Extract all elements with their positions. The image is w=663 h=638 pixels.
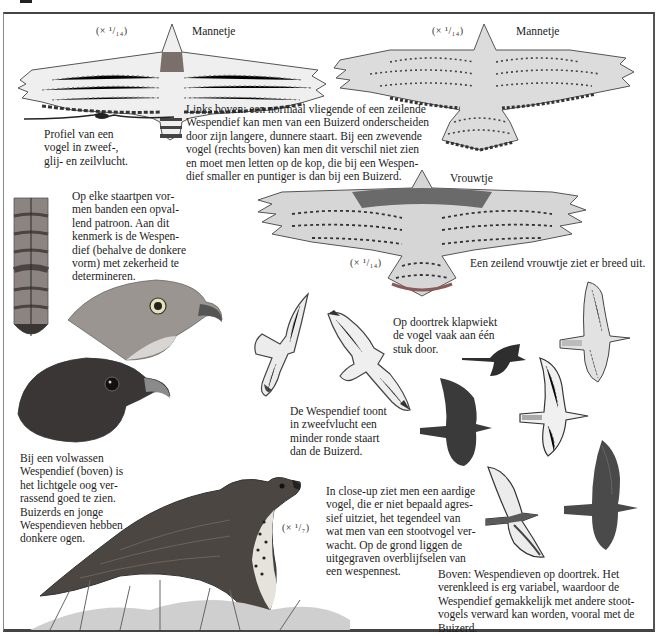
- female-soaring-illustration: [252, 168, 592, 298]
- male-label: Mannetje: [516, 25, 559, 37]
- scale-label: (× ¹/₁₄): [432, 25, 464, 36]
- tail-feather-illustration: [12, 196, 50, 342]
- flight-profile-silhouette: [24, 111, 174, 123]
- scale-label: (× ¹/₁₄): [96, 25, 128, 36]
- gliding-caption: De Wespendief toont in zweefvlucht een m…: [290, 405, 387, 459]
- perched-bird-illustration: [30, 460, 350, 630]
- migration-caption: Boven: Wespendieven op doortrek. Het ver…: [438, 568, 634, 635]
- female-label: Vrouwtje: [450, 172, 493, 184]
- scale-label: (× ¹/₇): [282, 522, 310, 533]
- migrating-bird-dark-2: [562, 438, 640, 552]
- previous-page-glyph: [20, 0, 32, 3]
- migrating-bird-light-3: [484, 465, 554, 561]
- female-caption: Een zeilend vrouwtje ziet er breed uit.: [470, 257, 645, 269]
- closeup-caption: In close-up ziet men een aardige vogel, …: [326, 485, 476, 579]
- adult-head-illustration: [66, 276, 226, 362]
- gliding-bird-illustration-1: [250, 292, 312, 398]
- juvenile-head-illustration: [16, 354, 174, 444]
- migrating-bird-dark-1: [418, 376, 494, 468]
- profile-caption: Profiel van een vogel in zweef-, glij- e…: [44, 128, 128, 168]
- tail-feather-caption: Op elke staartpen vor- men banden een op…: [72, 190, 186, 284]
- page-top-margin: [0, 0, 663, 12]
- scale-label: (× ¹/₁₄): [350, 257, 382, 268]
- male-label: Mannetje: [192, 25, 235, 37]
